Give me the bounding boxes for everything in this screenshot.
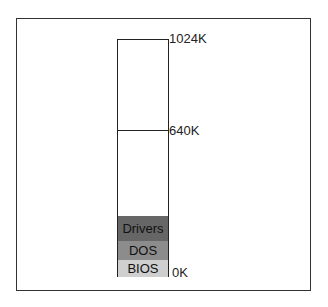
segment-bios: BIOS	[118, 260, 168, 277]
segment-dos-label: DOS	[129, 243, 157, 258]
segment-drivers: Drivers	[118, 216, 168, 241]
segment-bios-label: BIOS	[127, 261, 158, 276]
marker-0k: 0K	[172, 266, 188, 279]
marker-1024k: 1024K	[169, 32, 207, 45]
segment-drivers-label: Drivers	[122, 221, 163, 236]
conventional-memory-boundary	[118, 130, 168, 131]
memory-bar: Drivers DOS BIOS	[117, 39, 169, 277]
segment-dos: DOS	[118, 241, 168, 260]
marker-640k: 640K	[169, 124, 199, 137]
